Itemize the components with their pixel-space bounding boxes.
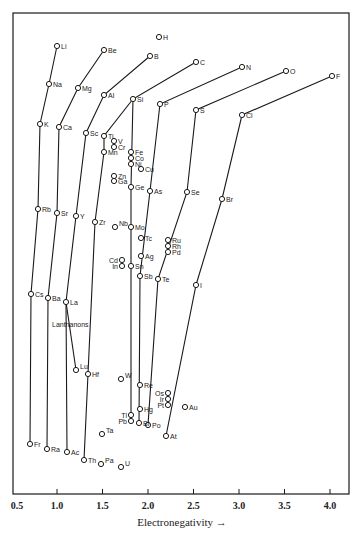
x-axis-ticks: 0.51.01.52.02.53.03.54.0 (11, 489, 337, 511)
element-marker (219, 196, 224, 201)
element-marker (128, 184, 133, 189)
element-label: At (170, 433, 177, 440)
element-label: Fr (34, 441, 41, 448)
element-label: Te (162, 276, 170, 283)
element-marker (111, 173, 116, 178)
element-marker (165, 402, 170, 407)
element-marker (54, 43, 59, 48)
element-marker (54, 210, 59, 215)
element-label: Se (191, 189, 200, 196)
element-label: Mo (135, 224, 145, 231)
element-label: Rb (42, 206, 51, 213)
element-marker (128, 149, 133, 154)
element-label: Ti (108, 133, 114, 140)
element-points (27, 34, 334, 469)
element-marker (27, 441, 32, 446)
element-marker (329, 73, 334, 78)
element-label: Mg (82, 85, 92, 93)
series-line (30, 46, 57, 444)
element-marker (136, 420, 141, 425)
plot-frame (13, 13, 349, 494)
element-label: Cu (145, 166, 154, 173)
element-marker (73, 213, 78, 218)
element-marker (73, 367, 78, 372)
element-label: Zr (99, 219, 106, 226)
element-label: La (70, 299, 78, 306)
element-marker (193, 59, 198, 64)
x-tick-label: 2.0 (142, 500, 155, 511)
x-tick-label: 1.0 (51, 500, 64, 511)
element-label: W (125, 372, 132, 379)
x-tick-label: 3.0 (233, 500, 246, 511)
element-label: Cs (35, 291, 44, 298)
element-marker (130, 96, 135, 101)
element-marker (138, 235, 143, 240)
element-label: Ra (51, 446, 60, 453)
element-label: Y (80, 213, 85, 220)
element-marker (165, 396, 170, 401)
element-label: N (246, 64, 251, 71)
element-label: Ga (118, 178, 127, 185)
element-marker (128, 412, 133, 417)
element-marker (118, 376, 123, 381)
element-marker (157, 101, 162, 106)
element-marker (165, 237, 170, 242)
element-label: Lu (80, 363, 88, 370)
element-marker (64, 449, 69, 454)
lanthanons-annotation: Lanthanons (52, 321, 89, 328)
element-marker (128, 161, 133, 166)
element-marker (44, 446, 49, 451)
element-marker (101, 47, 106, 52)
element-label: Sb (144, 273, 153, 280)
series-line (131, 62, 196, 421)
element-label: In (112, 263, 118, 270)
x-axis-title: Electronegativity → (137, 516, 227, 528)
element-label: Na (53, 81, 62, 88)
element-marker (111, 178, 116, 183)
element-label: Th (88, 457, 96, 464)
element-label: Ca (63, 124, 72, 131)
element-label: Pb (118, 418, 127, 425)
series-line (84, 152, 104, 460)
element-label: As (154, 188, 163, 195)
element-label: Pd (172, 249, 181, 256)
element-label: Hg (144, 406, 153, 414)
element-label: K (44, 121, 49, 128)
element-marker (37, 121, 42, 126)
element-marker (147, 53, 152, 58)
element-label: Br (226, 196, 234, 203)
element-label: Al (108, 92, 115, 99)
element-marker (137, 406, 142, 411)
element-marker (184, 189, 189, 194)
series-line (139, 67, 242, 423)
element-label: Ag (145, 253, 154, 261)
element-marker (45, 295, 50, 300)
element-marker (83, 130, 88, 135)
element-marker (56, 124, 61, 129)
x-tick-label: 1.5 (96, 500, 109, 511)
element-marker (128, 418, 133, 423)
element-label: H (163, 34, 168, 41)
element-marker (101, 133, 106, 138)
element-label: O (290, 68, 296, 75)
series-line (166, 76, 332, 436)
element-marker (101, 149, 106, 154)
element-marker (239, 112, 244, 117)
element-marker (75, 85, 80, 90)
element-marker (165, 390, 170, 395)
element-label: C (200, 59, 205, 66)
element-marker (63, 299, 68, 304)
element-marker (119, 257, 124, 262)
element-marker (137, 273, 142, 278)
element-marker (99, 431, 104, 436)
element-marker (81, 457, 86, 462)
element-marker (138, 253, 143, 258)
element-marker (35, 206, 40, 211)
electronegativity-chart: HLiNaKRbCsFrBeMgCaSrBaRaBAlScYLaLuAcCSiT… (0, 0, 356, 533)
element-labels: HLiNaKRbCsFrBeMgCaSrBaRaBAlScYLaLuAcCSiT… (34, 34, 340, 467)
element-marker (137, 382, 142, 387)
element-label: Sc (90, 130, 99, 137)
element-marker (193, 282, 198, 287)
element-label: Cr (118, 144, 126, 151)
element-marker (147, 188, 152, 193)
